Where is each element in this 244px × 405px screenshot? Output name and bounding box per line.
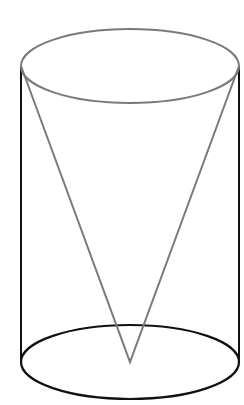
cone-outline — [21, 66, 239, 362]
cylinder-top-ellipse — [21, 29, 239, 103]
cone-in-cylinder-diagram — [0, 0, 244, 405]
